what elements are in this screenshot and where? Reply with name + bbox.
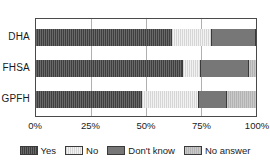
- table-row: [36, 29, 256, 46]
- legend-item-no-answer[interactable]: No answer: [184, 145, 250, 156]
- legend: YesNoDon't knowNo answer: [0, 145, 270, 156]
- legend-swatch-yes: [20, 146, 38, 155]
- bar-segment-dha-no: [172, 29, 212, 46]
- legend-item-don-t-know[interactable]: Don't know: [107, 145, 175, 156]
- legend-swatch-no-answer: [184, 146, 202, 155]
- bar-segment-fhsa-no: [183, 60, 201, 77]
- bar-segment-fhsa-don-t-know: [201, 60, 249, 77]
- plot-area: [35, 18, 257, 117]
- bar-segment-gpfh-don-t-know: [199, 91, 228, 108]
- bars-layer: [36, 19, 256, 116]
- legend-swatch-no: [65, 146, 83, 155]
- legend-label-yes: Yes: [41, 145, 57, 156]
- legend-label-no-answer: No answer: [205, 145, 250, 156]
- table-row: [36, 60, 256, 77]
- x-axis-tick-100: 100%: [245, 119, 269, 132]
- table-row: [36, 91, 256, 108]
- x-axis-tick-75: 75%: [192, 119, 211, 132]
- y-axis-label-dha: DHA: [8, 28, 30, 45]
- legend-label-don-t-know: Don't know: [128, 145, 175, 156]
- x-axis-tick-0: 0%: [28, 119, 42, 132]
- legend-label-no: No: [86, 145, 98, 156]
- bar-segment-gpfh-yes: [36, 91, 142, 108]
- stacked-bar-chart: DHA FHSA GPFH 0%25%50%75%100% YesNoDon't…: [0, 0, 270, 168]
- bar-segment-dha-yes: [36, 29, 172, 46]
- legend-item-yes[interactable]: Yes: [20, 145, 57, 156]
- bar-segment-fhsa-no-answer: [249, 60, 256, 77]
- x-axis-tick-50: 50%: [136, 119, 155, 132]
- bar-segment-fhsa-yes: [36, 60, 183, 77]
- x-axis-labels: 0%25%50%75%100%: [35, 119, 257, 133]
- legend-item-no[interactable]: No: [65, 145, 98, 156]
- x-axis-tick-25: 25%: [81, 119, 100, 132]
- y-axis-label-fhsa: FHSA: [3, 59, 30, 76]
- legend-swatch-don-t-know: [107, 146, 125, 155]
- bar-segment-gpfh-no-answer: [227, 91, 256, 108]
- y-axis-labels: DHA FHSA GPFH: [0, 18, 33, 117]
- y-axis-label-gpfh: GPFH: [1, 90, 30, 107]
- bar-segment-dha-don-t-know: [212, 29, 256, 46]
- bar-segment-gpfh-no: [142, 91, 199, 108]
